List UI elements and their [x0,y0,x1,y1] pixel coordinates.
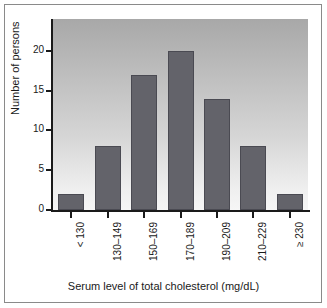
x-axis-tick [252,212,254,218]
y-axis-tick-label: 20 [33,45,44,55]
bar [95,146,121,210]
bar [277,194,303,210]
x-axis-tick [289,212,291,218]
bar [58,194,84,210]
y-axis-tick-label: 10 [33,124,44,134]
x-axis-title: Serum level of total cholesterol (mg/dL) [0,280,327,292]
x-axis-tick [180,212,182,218]
y-axis-tick-label: 15 [33,85,44,95]
y-axis-tick-label: 0 [38,204,44,214]
y-axis-tick [46,50,51,52]
x-axis-tick [70,212,72,218]
y-axis-tick [46,129,51,131]
x-axis-tick [143,212,145,218]
y-axis-tick-label: 5 [38,164,44,174]
y-axis-title: Number of persons [10,21,21,115]
x-axis-tick-label: < 130 [76,222,86,247]
y-axis-tick [46,209,51,211]
y-axis-tick [46,169,51,171]
x-axis-tick-label: 130–149 [113,222,123,261]
x-axis-tick-label: 190–209 [222,222,232,261]
x-axis-tick [216,212,218,218]
chart-figure: 05101520 < 130130–149150–169170–189190–2… [0,0,327,308]
x-axis-tick-label: 150–169 [149,222,159,261]
bar [131,75,157,210]
x-axis-tick [107,212,109,218]
bar [204,99,230,210]
bar [240,146,266,210]
x-axis-tick-label: ≥ 230 [295,222,305,247]
y-axis-tick [46,90,51,92]
y-axis-line [51,19,53,211]
bar [168,51,194,210]
x-axis-tick-label: 170–189 [186,222,196,261]
x-axis-tick-label: 210–229 [258,222,268,261]
